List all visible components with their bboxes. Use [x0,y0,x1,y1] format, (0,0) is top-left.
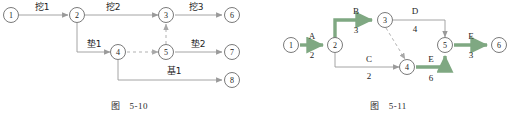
node-5-label: 5 [443,41,447,50]
node-3: 3 [378,13,393,28]
edge-3-4-dummy [386,28,405,59]
edge-label-wa1: 挖1 [35,1,50,12]
node-6-label: 6 [497,41,501,50]
node-7-label: 7 [230,48,234,57]
figure-5-10-caption: 图5-10 [0,99,259,112]
activity-E6-label: E [428,54,434,64]
node-4-label: 4 [405,63,409,72]
node-8: 8 [225,73,240,88]
node-3: 3 [159,8,174,23]
node-6: 6 [492,38,507,53]
edge-3-5-D [393,20,445,37]
edge-label-ji1: 基1 [167,65,182,76]
activity-D-duration: 4 [413,24,418,34]
edge-label-wa2: 挖2 [106,1,121,12]
activity-A-duration: 2 [310,50,315,60]
activity-B-duration: 3 [354,25,359,35]
activity-E3-duration: 3 [469,50,474,60]
node-5: 5 [438,38,453,53]
figure-5-10-graphic: 5 --> 3 --> 1 2 3 4 [0,0,259,95]
node-6-label: 6 [230,11,234,20]
node-2-label: 2 [333,41,337,50]
activity-D-label: D [412,6,419,16]
node-2: 2 [328,38,343,53]
activity-B-label: B [353,6,359,16]
caption-number: 5-10 [130,101,149,111]
node-1-label: 1 [9,11,13,20]
node-8-label: 8 [230,76,234,85]
activity-C-duration: 2 [367,71,372,81]
node-1: 1 [284,38,299,53]
activity-A-label: A [309,31,316,41]
figure-5-11: 1 2 3 4 5 6 A 2 [259,0,518,116]
node-5-label: 5 [164,48,168,57]
activity-E6-duration: 6 [429,73,434,83]
figure-5-10: 5 --> 3 --> 1 2 3 4 [0,0,259,116]
node-2: 2 [70,8,85,23]
node-6: 6 [225,8,240,23]
caption-prefix: 图 [111,101,121,111]
caption-prefix: 图 [370,101,380,111]
node-5: 5 [159,45,174,60]
figure-5-11-graphic: 1 2 3 4 5 6 A 2 [259,0,518,95]
edge-label-dian1: 垫1 [87,38,102,49]
node-4: 4 [111,45,126,60]
node-3-label: 3 [383,16,387,25]
caption-number: 5-11 [389,101,407,111]
node-1-label: 1 [289,41,293,50]
node-2-label: 2 [75,11,79,20]
node-4-label: 4 [116,48,120,57]
activity-E3-label: E [468,31,474,41]
edge-label-dian2: 垫2 [191,38,206,49]
node-3-label: 3 [164,11,168,20]
activity-C-label: C [366,54,372,64]
figure-pair-canvas: 5 --> 3 --> 1 2 3 4 [0,0,518,116]
figure-5-11-caption: 图5-11 [259,99,518,112]
node-1: 1 [4,8,19,23]
edge-label-wa3: 挖3 [189,1,204,12]
node-4: 4 [400,60,415,75]
node-7: 7 [225,45,240,60]
